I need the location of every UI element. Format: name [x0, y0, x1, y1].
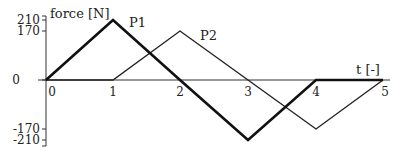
x-tick-label: 1	[109, 85, 117, 99]
x-tick-label: 2	[176, 85, 184, 99]
y-axis-title: force [N]	[50, 6, 109, 21]
y-tick-label: 170	[17, 24, 40, 38]
x-tick-label: 4	[312, 85, 320, 99]
y-ticks	[42, 16, 46, 146]
x-tick-label: 0	[48, 85, 56, 99]
y-tick-label: -210	[13, 133, 40, 147]
x-tick-label: 3	[244, 85, 252, 99]
x-axis-title: t [-]	[356, 62, 380, 77]
x-tick-label: 5	[381, 85, 389, 99]
y-tick-label: 0	[12, 73, 20, 87]
force-time-chart: 210 170 0 -170 -210 0 1 2 3 4 5 force [N…	[0, 0, 410, 156]
series-p2-label: P2	[200, 28, 217, 43]
series-p1-label: P1	[129, 15, 146, 30]
